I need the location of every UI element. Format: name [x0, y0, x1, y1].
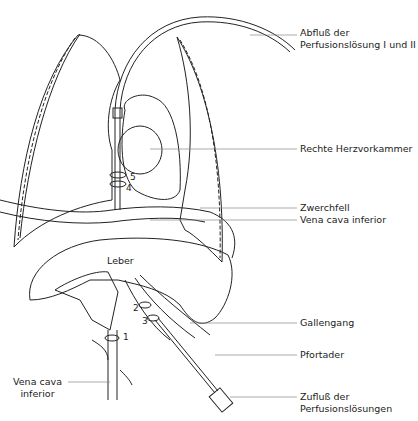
label-gallengang: Gallengang — [300, 317, 354, 329]
label-herzvorkammer: Rechte Herzvorkammer — [300, 143, 413, 155]
label-zwerchfell: Zwerchfell — [300, 202, 350, 214]
label-abfluss: Abfluß der Perfusionslösung I und II — [300, 27, 416, 51]
left-lung — [14, 35, 120, 247]
label-vena-cava-left: Vena cava inferior — [13, 376, 62, 400]
label-abfluss-line1: Abfluß der — [300, 27, 416, 39]
label-zufluss: Zufluß der Perfusionslösungen — [300, 391, 392, 415]
label-zufluss-line1: Zufluß der — [300, 391, 392, 403]
outflow-tube — [115, 17, 295, 210]
ligature-number-3: 3 — [142, 316, 148, 326]
label-zufluss-line2: Perfusionslösungen — [300, 403, 392, 415]
label-vena-cava-left-line2: inferior — [13, 388, 62, 400]
label-leber: Leber — [107, 255, 134, 267]
label-pfortader: Pfortader — [300, 349, 344, 361]
ligature-number-2: 2 — [133, 303, 139, 313]
inflow-catheter — [155, 318, 218, 393]
ligature-number-1: 1 — [123, 332, 129, 342]
liver — [30, 238, 233, 323]
ligature-number-4: 4 — [126, 183, 132, 193]
label-vena-cava-left-line1: Vena cava — [13, 376, 62, 388]
portal-vein — [125, 280, 170, 340]
label-abfluss-line2: Perfusionslösung I und II — [300, 39, 416, 51]
label-vena-cava-right: Vena cava inferior — [300, 214, 386, 226]
anatomy-diagram — [0, 0, 418, 421]
ligature-number-5: 5 — [130, 172, 136, 182]
right-atrium — [118, 126, 162, 174]
right-lung — [177, 37, 222, 262]
